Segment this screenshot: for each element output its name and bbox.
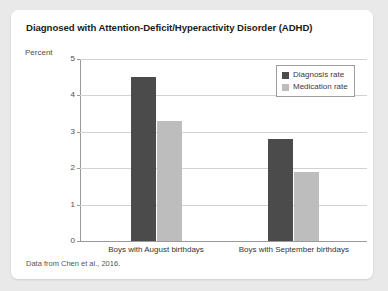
- y-tick-label-3: 3: [71, 128, 75, 136]
- gridline-3: 3: [80, 132, 367, 133]
- y-tick-label-5: 5: [71, 55, 75, 63]
- gridline-5: 5: [80, 59, 367, 60]
- source-note: Data from Chen et al., 2016.: [26, 259, 120, 268]
- legend-swatch-icon: [282, 84, 289, 91]
- y-axis-line: [80, 59, 81, 241]
- bar-diagnosis-1: [268, 139, 293, 241]
- y-tick-mark-4: [77, 95, 80, 96]
- legend-label: Diagnosis rate: [293, 71, 344, 79]
- y-tick-label-0: 0: [71, 237, 75, 245]
- y-tick-label-1: 1: [71, 201, 75, 209]
- bar-diagnosis-0: [131, 77, 156, 241]
- plot-area: 012345 Boys with August birthdaysBoys wi…: [80, 59, 367, 241]
- y-tick-mark-0: [77, 241, 80, 242]
- y-tick-mark-5: [77, 59, 80, 60]
- chart-title: Diagnosed with Attention-Deficit/Hyperac…: [26, 22, 313, 33]
- legend-item-diagnosis[interactable]: Diagnosis rate: [282, 69, 348, 81]
- y-tick-label-2: 2: [71, 164, 75, 172]
- y-tick-mark-2: [77, 168, 80, 169]
- bar-medication-0: [157, 121, 182, 241]
- bar-medication-1: [294, 172, 319, 241]
- category-label-1: Boys with September birthdays: [239, 245, 349, 254]
- chart-card: Diagnosed with Attention-Deficit/Hyperac…: [11, 10, 373, 279]
- y-axis-label: Percent: [25, 48, 53, 57]
- chart-legend: Diagnosis rateMedication rate: [276, 65, 355, 97]
- legend-item-medication[interactable]: Medication rate: [282, 81, 348, 93]
- legend-label: Medication rate: [293, 83, 348, 91]
- category-label-0: Boys with August birthdays: [108, 245, 204, 254]
- y-tick-label-4: 4: [71, 91, 75, 99]
- legend-swatch-icon: [282, 72, 289, 79]
- gridline-2: 2: [80, 168, 367, 169]
- y-tick-mark-1: [77, 205, 80, 206]
- page-background: Diagnosed with Attention-Deficit/Hyperac…: [0, 0, 388, 291]
- y-tick-mark-3: [77, 132, 80, 133]
- gridline-0: 0: [80, 241, 367, 242]
- gridline-1: 1: [80, 205, 367, 206]
